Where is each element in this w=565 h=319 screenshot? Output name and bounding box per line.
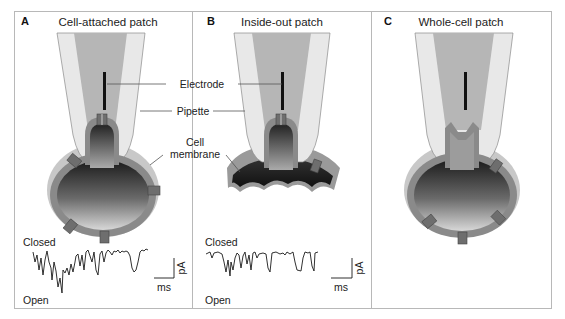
panel-title-a: Cell-attached patch <box>58 16 158 28</box>
trace-b-closed-label: Closed <box>205 236 238 248</box>
ion-channel <box>100 231 109 243</box>
panel-letter-a: A <box>21 15 29 27</box>
panel-c-illustration <box>404 33 520 244</box>
cell-membrane-label-line2: membrane <box>160 148 230 160</box>
panel-a-illustration <box>47 33 160 243</box>
patch-clamp-illustration <box>0 0 565 319</box>
electrode <box>281 72 284 110</box>
trace-b-open-label: Open <box>205 294 231 306</box>
panel-title-c: Whole-cell patch <box>411 16 511 28</box>
scale-bar-a <box>154 258 174 278</box>
pipette-label: Pipette <box>174 105 212 117</box>
electrode <box>103 72 106 110</box>
ion-channel <box>458 232 467 244</box>
trace-b-scale-y: pA <box>353 262 365 275</box>
panel-letter-c: C <box>384 15 392 27</box>
panel-b-illustration <box>227 33 340 192</box>
electrode-label: Electrode <box>168 78 236 90</box>
ion-channel <box>148 186 160 195</box>
electrode <box>464 72 467 110</box>
single-channel-trace-b <box>206 252 318 276</box>
single-channel-trace-a <box>33 249 148 293</box>
cell-membrane-label-line1: Cell <box>160 136 230 148</box>
trace-a-closed-label: Closed <box>23 236 56 248</box>
trace-b-scale-x: ms <box>334 281 348 293</box>
trace-a-scale-x: ms <box>157 281 171 293</box>
panel-letter-b: B <box>207 15 215 27</box>
trace-a-open-label: Open <box>23 294 49 306</box>
trace-a-scale-y: pA <box>175 262 187 275</box>
scale-bar-b <box>331 258 352 278</box>
panel-title-b: Inside-out patch <box>232 16 332 28</box>
